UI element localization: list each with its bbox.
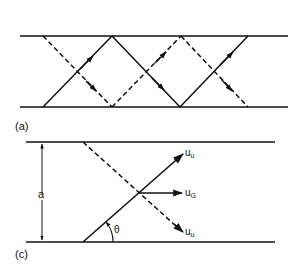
dashed-ray xyxy=(43,36,248,107)
lower-vector-label: uu xyxy=(185,226,195,238)
upper-wave-vector xyxy=(83,154,183,242)
angle-arc xyxy=(106,222,113,242)
lower-wave-vector xyxy=(83,142,176,226)
waveguide-diagram: (a) a θ uu uG uu (c) xyxy=(0,0,304,273)
figure-a: (a) xyxy=(15,36,288,132)
separation-label: a xyxy=(38,188,45,200)
lower-wave-arrowhead xyxy=(174,224,183,232)
group-velocity-label: uG xyxy=(185,187,196,199)
figure-c: a θ uu uG uu (c) xyxy=(15,142,275,260)
upper-vector-label: uu xyxy=(185,147,195,159)
figure-a-label: (a) xyxy=(15,120,28,132)
figure-c-label: (c) xyxy=(15,248,28,260)
angle-label: θ xyxy=(114,224,120,235)
